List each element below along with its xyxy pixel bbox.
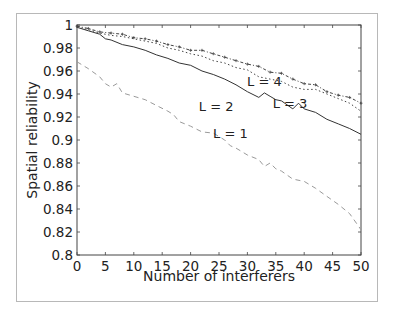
series-label-1: L = 1: [213, 126, 248, 141]
y-tick-label: 0.86: [43, 178, 73, 194]
plus-marker-icon: [200, 49, 203, 52]
x-tick-label: 50: [352, 258, 369, 274]
y-tick-label: 0.96: [43, 63, 73, 79]
y-tick-label: 1: [64, 17, 73, 33]
y-tick-label: 0.98: [43, 40, 73, 56]
x-tick-label: 0: [73, 258, 82, 274]
x-tick-label: 5: [101, 258, 110, 274]
series-labels: L = 1L = 2L = 3L = 4: [199, 74, 308, 141]
x-tick-label: 40: [296, 258, 313, 274]
x-tick-label: 10: [125, 258, 142, 274]
series-line-4: [77, 26, 361, 103]
plus-marker-icon: [257, 65, 260, 68]
y-tick-label: 0.8: [52, 247, 73, 263]
plus-marker-icon: [178, 45, 181, 48]
plus-marker-icon: [155, 40, 158, 43]
series-label-2: L = 2: [199, 99, 234, 114]
plus-marker-icon: [235, 59, 238, 62]
y-tick-label: 0.9: [52, 132, 73, 148]
series-label-4: L = 4: [247, 74, 282, 89]
y-tick-label: 0.82: [43, 224, 73, 240]
y-tick-label: 0.92: [43, 109, 73, 125]
series-label-3: L = 3: [273, 96, 308, 111]
plus-marker-icon: [337, 94, 340, 97]
plus-marker-icon: [303, 82, 306, 85]
plus-marker-icon: [212, 52, 215, 55]
plus-marker-icon: [325, 90, 328, 93]
y-axis: 0.80.820.840.860.880.90.920.940.960.981: [43, 17, 361, 263]
plus-marker-icon: [360, 102, 363, 105]
plus-marker-icon: [246, 63, 249, 66]
y-tick-label: 0.84: [43, 201, 73, 217]
y-axis-title: Spatial reliability: [24, 81, 40, 198]
plus-marker-icon: [291, 78, 294, 81]
plus-marker-icon: [144, 37, 147, 40]
plus-marker-icon: [121, 33, 124, 36]
plus-marker-icon: [166, 43, 169, 46]
plus-marker-icon: [110, 32, 113, 35]
plus-marker-icon: [223, 56, 226, 59]
series-line-2: [77, 27, 361, 134]
y-tick-label: 0.94: [43, 86, 73, 102]
series-line-1: [77, 62, 361, 230]
x-tick-label: 45: [324, 258, 341, 274]
x-axis-title: Number of interferers: [143, 268, 295, 284]
y-tick-label: 0.88: [43, 155, 73, 171]
plus-marker-icon: [189, 49, 192, 52]
line-chart: 05101520253035404550 0.80.820.840.860.88…: [0, 0, 394, 321]
